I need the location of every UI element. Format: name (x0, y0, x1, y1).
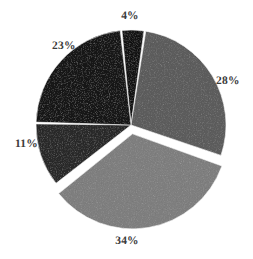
pie-label-11: 11% (15, 139, 38, 151)
pie-label-23: 23% (52, 41, 76, 53)
pie-label-28: 28% (216, 76, 240, 88)
pie-label-34: 34% (115, 236, 139, 248)
pie-label-4: 4% (121, 11, 139, 23)
pie-chart-canvas (0, 0, 253, 259)
pie-chart: 4% 23% 28% 11% 34% (0, 0, 253, 259)
